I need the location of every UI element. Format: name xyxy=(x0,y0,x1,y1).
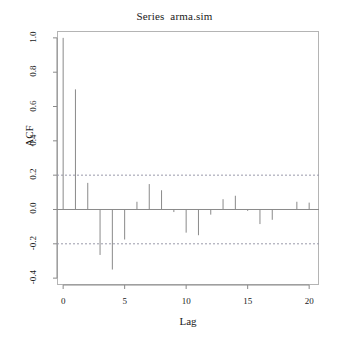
y-axis-ticks xyxy=(53,38,57,278)
x-tick-label: 0 xyxy=(51,296,75,306)
acf-plot: Series arma.sim ACF Lag 1.00.80.60.40.20… xyxy=(0,0,349,339)
y-tick-label: -0.2 xyxy=(28,230,38,256)
y-tick-label: 0.2 xyxy=(28,161,38,187)
x-tick-label: 20 xyxy=(297,296,321,306)
y-tick-label: 0.6 xyxy=(28,93,38,119)
x-tick-label: 5 xyxy=(113,296,137,306)
x-tick-label: 15 xyxy=(236,296,260,306)
plot-canvas xyxy=(0,0,349,339)
acf-bars xyxy=(63,38,309,270)
y-tick-label: 0.0 xyxy=(28,195,38,221)
x-axis-ticks xyxy=(63,285,309,289)
y-tick-label: 0.4 xyxy=(28,127,38,153)
y-tick-label: 0.8 xyxy=(28,58,38,84)
y-tick-label: -0.4 xyxy=(28,264,38,290)
x-tick-label: 10 xyxy=(174,296,198,306)
y-tick-label: 1.0 xyxy=(28,24,38,50)
